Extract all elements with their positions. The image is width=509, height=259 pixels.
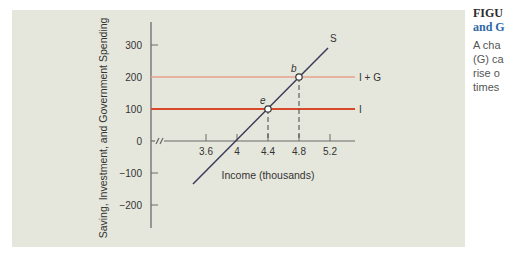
- caption-body: A cha (G) ca rise o times: [473, 38, 509, 94]
- y-tick-label-0: 0: [136, 136, 142, 147]
- y-tick-label-300: 300: [125, 40, 142, 51]
- s-line: [193, 48, 328, 184]
- figure-caption: FIGU and G A cha (G) ca rise o times: [473, 6, 509, 94]
- x-tick-label-4: 4: [234, 146, 240, 157]
- caption-title-line1: FIGU: [473, 6, 509, 20]
- e-label: e: [260, 95, 266, 106]
- x-tick-label-4.8: 4.8: [292, 146, 306, 157]
- point-b: [296, 74, 302, 80]
- y-axis-title: Saving, Investment, and Government Spend…: [97, 18, 109, 239]
- caption-body-line: (G) ca: [473, 52, 509, 66]
- caption-title-line2: and G: [473, 20, 509, 34]
- caption-body-line: rise o: [473, 66, 509, 80]
- x-axis: [151, 138, 355, 144]
- i-label: I: [359, 104, 362, 115]
- x-axis-title: Income (thousands): [222, 169, 315, 181]
- caption-body-line: A cha: [473, 38, 509, 52]
- y-ticks: [151, 45, 158, 205]
- y-tick-label-neg100: −100: [119, 168, 142, 179]
- b-label: b: [291, 63, 297, 74]
- y-tick-label-neg200: −200: [119, 200, 142, 211]
- i-plus-g-label: I + G: [359, 72, 381, 83]
- s-label: S: [330, 33, 337, 44]
- x-tick-label-5.2: 5.2: [323, 146, 337, 157]
- caption-body-line: times: [473, 80, 509, 94]
- y-tick-label-200: 200: [125, 72, 142, 83]
- x-tick-label-4.4: 4.4: [261, 146, 275, 157]
- point-e: [265, 106, 271, 112]
- y-tick-label-100: 100: [125, 104, 142, 115]
- x-tick-label-3.6: 3.6: [199, 146, 213, 157]
